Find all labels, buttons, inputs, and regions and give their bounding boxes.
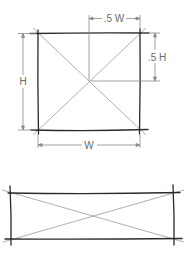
width-label: W (84, 140, 94, 151)
half-width-label: .5 W (104, 13, 125, 24)
rectangle-figure (2, 185, 184, 245)
half-height-label: .5 H (148, 52, 166, 63)
rectangle-outline (5, 185, 182, 245)
square-figure: .5 W .5 H H W (18, 13, 166, 151)
square-diagonals (33, 28, 146, 135)
center-finding-diagram: .5 W .5 H H W (0, 0, 191, 253)
half-width-dimension (89, 15, 140, 81)
height-label: H (19, 76, 26, 87)
rectangle-diagonals (2, 190, 184, 242)
